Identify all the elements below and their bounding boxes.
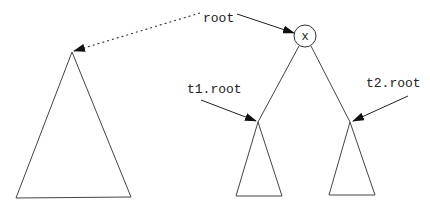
- node-x-label: x: [301, 30, 308, 44]
- tree-diagram: root x t1.root t2.root: [0, 0, 430, 210]
- arrow-t1root-to-t1: [201, 100, 256, 121]
- t2-subtree-triangle: [329, 122, 375, 195]
- t1-subtree-triangle: [236, 122, 282, 196]
- edge-x-to-t1: [258, 46, 299, 122]
- t1-root-label: t1.root: [187, 82, 242, 97]
- arrow-t2root-to-t2: [353, 96, 408, 121]
- edge-x-to-t2: [311, 46, 350, 122]
- arrow-root-to-x: [237, 14, 294, 33]
- node-x: x: [294, 25, 316, 47]
- root-label: root: [203, 11, 234, 26]
- dotted-arrow-root-to-big-tree: [74, 13, 200, 51]
- big-subtree-triangle: [16, 52, 131, 198]
- t2-root-label: t2.root: [366, 76, 421, 91]
